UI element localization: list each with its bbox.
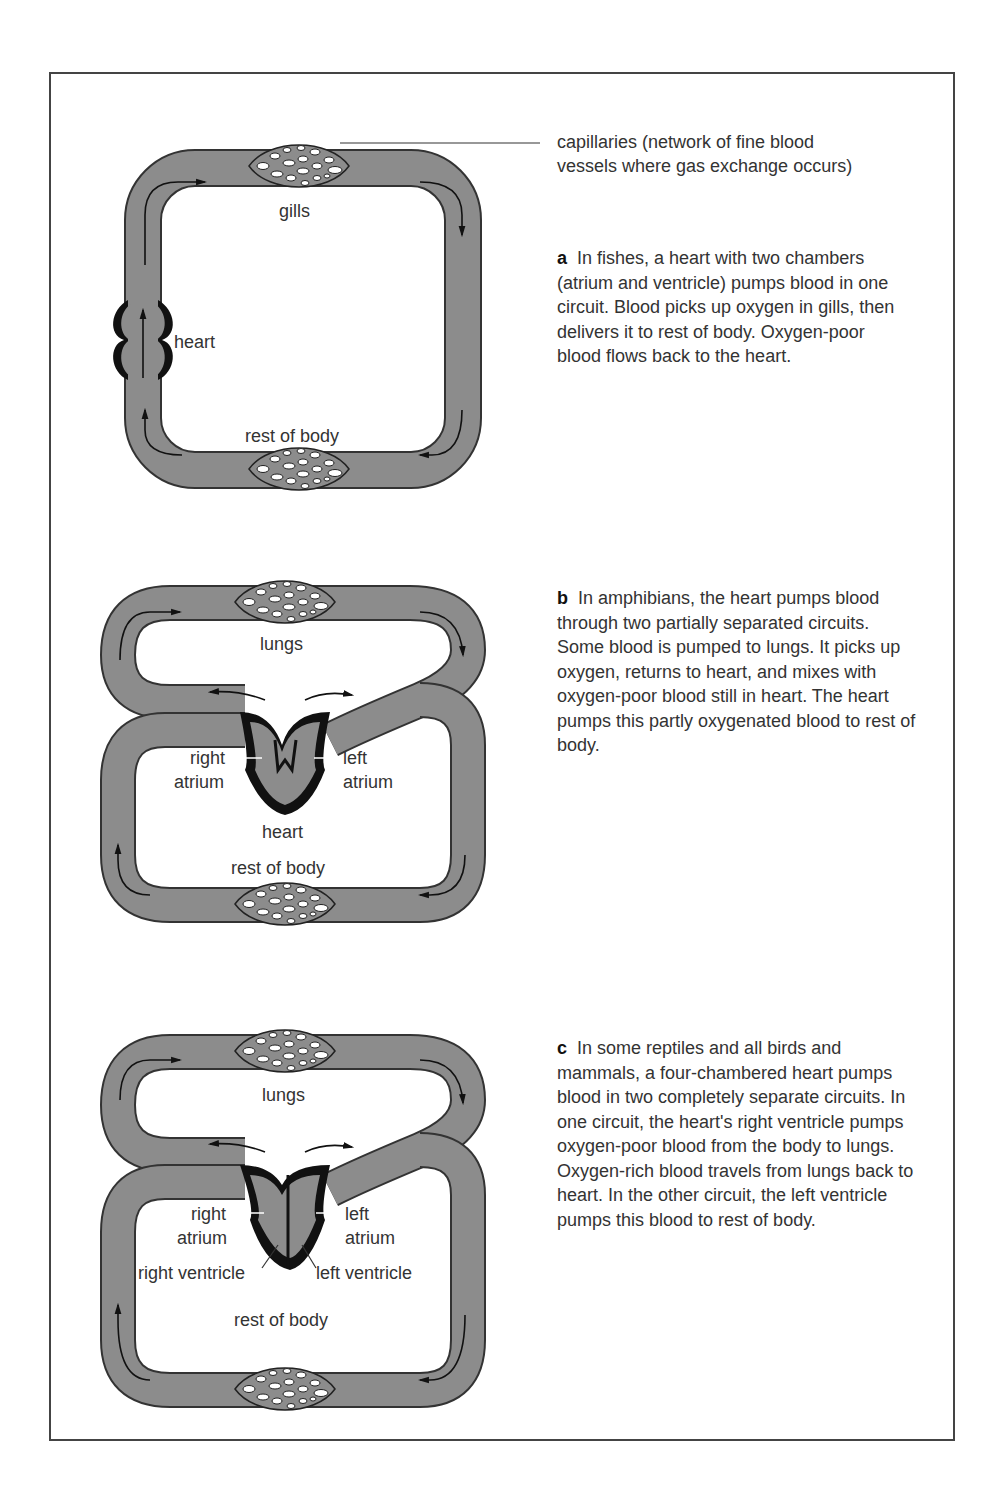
label-heart-a: heart [174, 331, 215, 353]
capillaries-callout-line1: capillaries (network of fine blood [557, 131, 814, 153]
caption-b-text: In amphibians, the heart pumps blood thr… [557, 588, 915, 755]
label-left-c-2: atrium [345, 1227, 395, 1249]
label-right-ventricle: right ventricle [138, 1262, 245, 1284]
label-body-a: rest of body [245, 425, 339, 447]
label-right-b-1: right [190, 747, 225, 769]
label-right-c-1: right [191, 1203, 226, 1225]
label-left-c-1: left [345, 1203, 369, 1225]
three-chamber-heart-icon [240, 712, 330, 815]
label-right-b-2: atrium [174, 771, 224, 793]
capillaries-callout-line2: vessels where gas exchange occurs) [557, 155, 852, 177]
label-left-b-2: atrium [343, 771, 393, 793]
label-lungs-c: lungs [262, 1084, 305, 1106]
caption-a-letter: a [557, 248, 567, 268]
caption-a-text: In fishes, a heart with two chambers (at… [557, 248, 894, 366]
caption-c-letter: c [557, 1038, 567, 1058]
caption-b-letter: b [557, 588, 568, 608]
caption-a: a In fishes, a heart with two chambers (… [557, 246, 907, 369]
label-lungs-b: lungs [260, 633, 303, 655]
caption-c: c In some reptiles and all birds and mam… [557, 1036, 917, 1232]
four-chamber-heart-icon [240, 1165, 330, 1270]
label-gills: gills [279, 200, 310, 222]
label-right-c-2: atrium [177, 1227, 227, 1249]
label-body-c: rest of body [234, 1309, 328, 1331]
caption-c-text: In some reptiles and all birds and mamma… [557, 1038, 913, 1230]
label-heart-b: heart [262, 821, 303, 843]
label-left-ventricle: left ventricle [316, 1262, 412, 1284]
label-left-b-1: left [343, 747, 367, 769]
label-body-b: rest of body [231, 857, 325, 879]
caption-b: b In amphibians, the heart pumps blood t… [557, 586, 917, 758]
